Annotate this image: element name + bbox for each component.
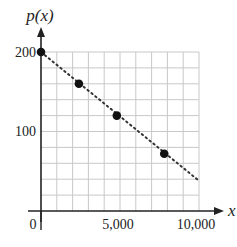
x-axis-label: x [227,201,236,220]
data-point [160,149,169,158]
grid [41,52,199,211]
y-tick-100: 100 [15,124,36,139]
x-tick-10000: 10,000 [177,217,216,232]
x-axis-arrow-icon [214,207,224,215]
data-point [113,111,122,120]
data-point [37,48,46,57]
axes [28,27,224,222]
y-tick-200: 200 [15,45,36,60]
y-axis-label: p(x) [25,6,54,25]
chart: p(x) x 200 100 0 5,000 10,000 [0,0,237,247]
origin-label: 0 [30,217,37,232]
y-axis-arrow-icon [37,27,45,37]
data-point [75,80,84,89]
x-tick-5000: 5,000 [102,217,134,232]
